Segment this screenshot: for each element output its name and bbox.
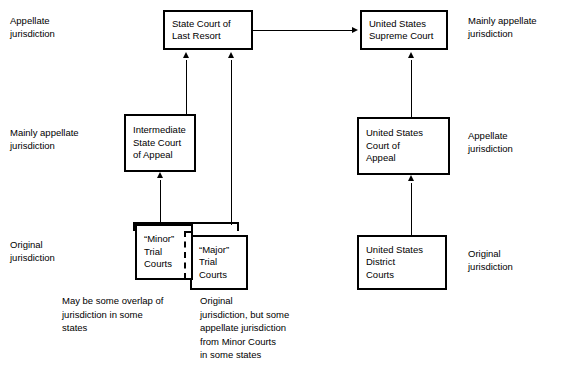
box-united-states-court-of-appeal: United States Court of Appeal bbox=[357, 117, 450, 175]
label-line: jurisdiction bbox=[10, 27, 55, 40]
connector-trial-courts-to-last-resort bbox=[231, 60, 232, 225]
right-label-original-jurisdiction: Original jurisdiction bbox=[468, 247, 513, 273]
label-line: jurisdiction bbox=[468, 260, 513, 273]
connector-us-appeal-to-us-supreme-court bbox=[411, 60, 412, 117]
label-line: Mainly appellate bbox=[468, 14, 537, 27]
box-line: Intermediate bbox=[133, 124, 194, 137]
right-label-mainly-appellate-jurisdiction: Mainly appellate jurisdiction bbox=[468, 14, 537, 40]
jurisdiction-overlap-dashed-cap bbox=[184, 231, 193, 233]
left-label-original-jurisdiction: Original jurisdiction bbox=[10, 238, 55, 264]
note-line: from Minor Courts bbox=[200, 335, 289, 349]
box-line: Supreme Court bbox=[369, 30, 446, 43]
box-line: Trial bbox=[199, 256, 246, 269]
right-label-appellate-jurisdiction: Appellate jurisdiction bbox=[468, 129, 513, 155]
box-line: Appeal bbox=[366, 152, 448, 165]
note-major-trial-courts-jurisdiction: Original jurisdiction, but some appellat… bbox=[200, 294, 289, 362]
arrowhead-us-district-to-us-appeal bbox=[408, 175, 414, 181]
note-line: appellate jurisdiction bbox=[200, 321, 289, 335]
label-line: jurisdiction bbox=[10, 139, 79, 152]
note-line: Original bbox=[200, 294, 289, 308]
box-line: of Appeal bbox=[133, 149, 194, 162]
note-line: jurisdiction, but some bbox=[200, 308, 289, 322]
box-line: Last Resort bbox=[172, 30, 251, 43]
label-line: jurisdiction bbox=[468, 142, 513, 155]
arrowhead-trial-courts-to-last-resort bbox=[228, 52, 234, 58]
box-line: United States bbox=[369, 18, 446, 31]
label-line: Original bbox=[468, 247, 513, 260]
box-line: State Court bbox=[133, 137, 194, 150]
note-jurisdiction-overlap: May be some overlap of jurisdiction in s… bbox=[62, 294, 163, 335]
box-major-trial-courts: “Major” Trial Courts bbox=[190, 235, 248, 290]
court-system-diagram: Appellate jurisdiction Mainly appellate … bbox=[0, 0, 567, 366]
box-state-court-of-last-resort: State Court of Last Resort bbox=[163, 10, 253, 50]
label-line: jurisdiction bbox=[468, 27, 537, 40]
connector-intermediate-to-last-resort bbox=[186, 60, 187, 114]
arrowhead-intermediate-to-last-resort bbox=[183, 52, 189, 58]
jurisdiction-overlap-dashed-divider bbox=[184, 231, 186, 279]
connector-trial-courts-to-intermediate bbox=[160, 180, 161, 225]
label-line: jurisdiction bbox=[10, 251, 55, 264]
box-line: United States bbox=[366, 127, 448, 140]
label-line: Appellate bbox=[468, 129, 513, 142]
connector-state-last-resort-to-us-supreme-court bbox=[253, 30, 352, 31]
box-line: Courts bbox=[366, 269, 445, 282]
arrowhead-state-to-us-supreme-court bbox=[352, 27, 358, 33]
arrowhead-trial-courts-to-intermediate bbox=[157, 172, 163, 178]
box-line: United States bbox=[366, 244, 445, 257]
note-line: jurisdiction in some bbox=[62, 308, 163, 322]
arrowhead-us-appeal-to-us-supreme-court bbox=[408, 52, 414, 58]
label-line: Original bbox=[10, 238, 55, 251]
note-line: in some states bbox=[200, 348, 289, 362]
box-united-states-supreme-court: United States Supreme Court bbox=[360, 10, 448, 50]
label-line: Appellate bbox=[10, 14, 55, 27]
left-label-mainly-appellate-jurisdiction: Mainly appellate jurisdiction bbox=[10, 126, 79, 152]
note-line: May be some overlap of bbox=[62, 294, 163, 308]
box-line: State Court of bbox=[172, 18, 251, 31]
box-intermediate-state-court-of-appeal: Intermediate State Court of Appeal bbox=[124, 114, 196, 172]
label-line: Mainly appellate bbox=[10, 126, 79, 139]
box-united-states-district-courts: United States District Courts bbox=[357, 235, 447, 290]
box-line: “Major” bbox=[199, 244, 246, 257]
box-line: Courts bbox=[199, 269, 246, 282]
box-line: Court of bbox=[366, 140, 448, 153]
connector-us-district-to-us-appeal bbox=[411, 183, 412, 235]
left-label-appellate-jurisdiction: Appellate jurisdiction bbox=[10, 14, 55, 40]
note-line: states bbox=[62, 321, 163, 335]
box-line: District bbox=[366, 256, 445, 269]
